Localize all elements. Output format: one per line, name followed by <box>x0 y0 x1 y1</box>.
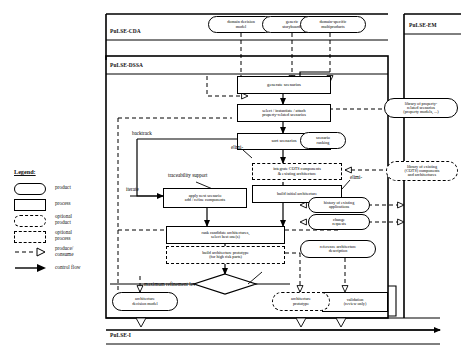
annotation-backtrack: backtrack <box>132 130 152 136</box>
legend-item-optional-process: optionalprocess <box>14 228 122 243</box>
annotation-traceability-support: traceability support <box>168 172 207 178</box>
legend: Legend: product process optionalproduct … <box>14 168 122 276</box>
legend-title: Legend: <box>14 168 122 175</box>
legend-label-product: product <box>55 185 71 190</box>
legend-label-optional-process: optionalprocess <box>55 230 72 241</box>
product-symbol-icon <box>14 181 48 194</box>
process-integrate-cots[interactable]: integrate COTS components& existing arch… <box>252 163 342 180</box>
product-reference-architecture-description[interactable]: reference architecturedescription <box>300 240 376 258</box>
legend-label-process: process <box>55 201 71 206</box>
legend-label-optional-product: optionalproduct <box>55 214 72 225</box>
decision-diamond <box>194 274 256 294</box>
product-history-applications[interactable]: history of existingapplications <box>308 197 370 213</box>
legend-label-produce-consume: produce/consume <box>55 246 73 257</box>
product-scenario-ranking[interactable]: scenarioranking <box>300 132 346 149</box>
process-symbol-icon <box>14 197 48 210</box>
product-domain-specific-multiproducts[interactable]: domain-specificmultiproducts <box>300 16 366 33</box>
process-generate-scenarios[interactable]: generate scenarios <box>237 76 331 94</box>
product-architecture-prototype[interactable]: architectureprototype <box>272 292 330 311</box>
control-flow-arrow-icon <box>14 261 48 274</box>
diagram-canvas: PuLSE-CDA PuLSE-DSSA PuLSE-EM PuLSE-I do… <box>0 0 461 359</box>
lane-label-em: PuLSE-EM <box>409 22 437 28</box>
produce-consume-arrow-icon <box>14 245 48 258</box>
process-apply-next-scenario[interactable]: apply next scenarioadd / refine componen… <box>163 188 247 208</box>
annotation-elimination-1: elimi- <box>231 144 243 150</box>
product-change-requests[interactable]: changerequests <box>308 214 370 230</box>
product-architecture-decision-model[interactable]: architecturedecision model <box>112 292 178 311</box>
product-library-cots[interactable]: library of existing(COTS) componentsand … <box>386 161 458 181</box>
optional-product-symbol-icon <box>14 213 48 226</box>
annotation-iterate: iterate <box>126 186 139 192</box>
optional-process-symbol-icon <box>14 229 48 242</box>
product-library-property-scenarios[interactable]: library of property-related scenarios(pr… <box>384 98 458 118</box>
legend-item-process: process <box>14 196 122 211</box>
process-select-instantiate-attach[interactable]: select / instantiate / attachproperty-re… <box>237 104 331 122</box>
legend-label-control-flow: control flow <box>55 265 81 270</box>
legend-item-produce-consume: produce/consume <box>14 244 122 259</box>
lane-label-i: PuLSE-I <box>110 332 131 338</box>
process-rank-candidate-architectures[interactable]: rank candidate architectures,select best… <box>166 226 285 244</box>
lane-label-cda: PuLSE-CDA <box>110 28 141 34</box>
legend-item-optional-product: optionalproduct <box>14 212 122 227</box>
legend-item-product: product <box>14 180 122 195</box>
process-validation[interactable]: validation(review only) <box>322 292 388 312</box>
lane-label-dssa: PuLSE-DSSA <box>110 62 143 68</box>
annotation-max-refinement: maximum refinement lev- <box>144 281 197 287</box>
process-build-architecture-prototype[interactable]: build architecture prototype(for high ri… <box>166 246 285 264</box>
annotation-elimination-2: elimi- <box>350 174 362 180</box>
legend-item-control-flow: control flow <box>14 260 122 275</box>
